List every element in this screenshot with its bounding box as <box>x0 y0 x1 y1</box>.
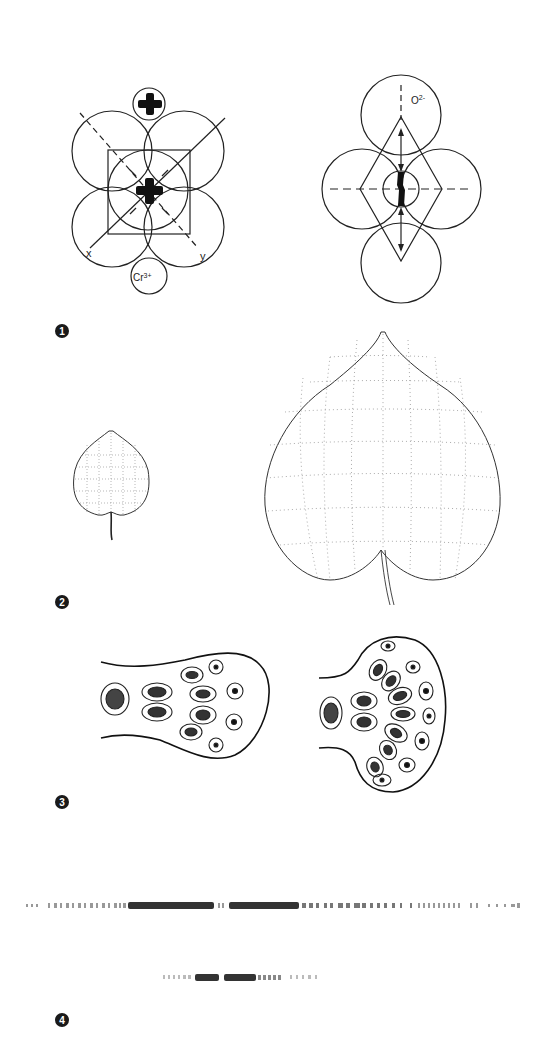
axis-x-label: x <box>86 247 92 259</box>
axis-y-label: y <box>200 250 206 262</box>
band-pattern-long <box>26 902 520 909</box>
large-leaf <box>265 332 500 605</box>
panel-label-4: 4 <box>55 1013 69 1027</box>
panel-label-3: 3 <box>55 795 69 809</box>
panel-label-1: 1 <box>55 324 69 338</box>
cross-symbol-top <box>138 93 162 115</box>
cr-ion-label: Cr3+ <box>133 272 152 283</box>
cells-left <box>101 660 243 752</box>
cells-right <box>320 641 435 786</box>
panel-label-2: 2 <box>55 595 69 609</box>
figure-canvas: x y Cr3+ O2- <box>0 0 558 1047</box>
small-leaf <box>74 431 149 540</box>
oxygen-ion-label: O2- <box>411 94 426 106</box>
band-pattern-short <box>163 974 317 981</box>
